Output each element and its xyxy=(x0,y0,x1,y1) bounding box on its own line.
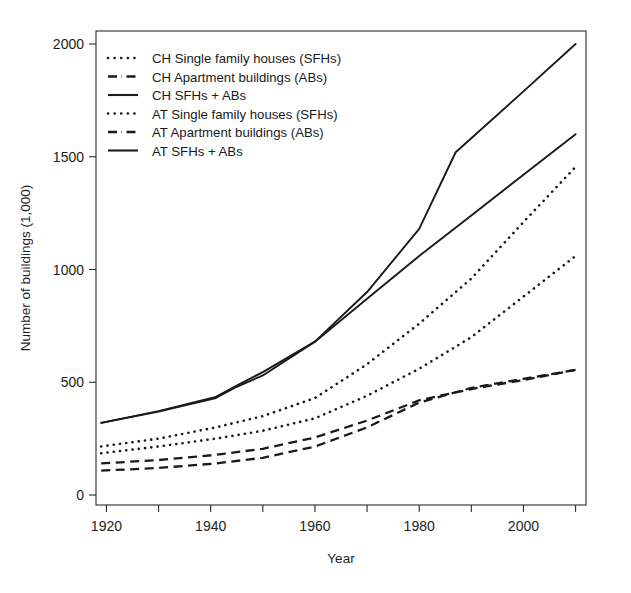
x-tick-label: 1960 xyxy=(299,518,330,534)
chart-background xyxy=(0,0,631,593)
x-tick-label: 1940 xyxy=(195,518,226,534)
x-axis-title: Year xyxy=(327,551,355,566)
legend-label-5: AT SFHs + ABs xyxy=(152,144,243,159)
x-tick-label: 1980 xyxy=(404,518,435,534)
y-tick-label: 2000 xyxy=(53,36,84,52)
y-tick-label: 1000 xyxy=(53,262,84,278)
y-axis-title: Number of buildings (1,000) xyxy=(18,185,33,352)
x-tick-label: 1920 xyxy=(91,518,122,534)
legend-label-2: CH SFHs + ABs xyxy=(152,88,247,103)
legend-label-4: AT Apartment buildings (ABs) xyxy=(152,125,324,140)
legend-label-0: CH Single family houses (SFHs) xyxy=(152,51,341,66)
chart-figure: 0500100015002000 19201940196019802000 CH… xyxy=(0,0,631,593)
y-tick-label: 0 xyxy=(76,487,84,503)
y-tick-label: 1500 xyxy=(53,149,84,165)
x-tick-label: 2000 xyxy=(508,518,539,534)
legend-label-3: AT Single family houses (SFHs) xyxy=(152,107,338,122)
line-chart: 0500100015002000 19201940196019802000 CH… xyxy=(0,0,631,593)
y-tick-label: 500 xyxy=(61,374,85,390)
legend-label-1: CH Apartment buildings (ABs) xyxy=(152,70,327,85)
